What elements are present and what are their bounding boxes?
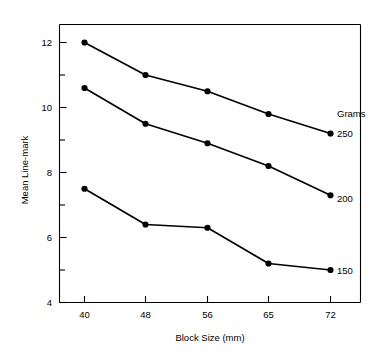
legend: Grams 250 200 150 <box>337 108 366 276</box>
data-point-200-48 <box>142 121 148 127</box>
x-tick-label-72: 72 <box>325 309 336 320</box>
series-label-150: 150 <box>337 265 353 276</box>
y-tick-label-4: 4 <box>47 297 52 308</box>
line-chart: 4 6 8 10 12 40 48 56 65 72 Block Size (m… <box>0 0 383 354</box>
y-axis-title: Mean Line-mark <box>19 135 30 204</box>
x-axis-tick-labels: 40 48 56 65 72 <box>79 309 336 320</box>
x-tick-label-48: 48 <box>140 309 151 320</box>
x-tick-label-65: 65 <box>263 309 274 320</box>
y-axis-tick-labels: 4 6 8 10 12 <box>41 37 52 308</box>
y-tick-label-10: 10 <box>41 102 52 113</box>
series-label-200: 200 <box>337 193 353 204</box>
y-tick-label-8: 8 <box>47 167 52 178</box>
x-axis-title: Block Size (mm) <box>175 332 244 343</box>
data-point-250-40 <box>81 39 87 45</box>
plot-frame <box>60 25 361 303</box>
series-label-250: 250 <box>337 128 353 139</box>
series-layer <box>81 39 333 273</box>
y-tick-label-6: 6 <box>47 232 52 243</box>
data-point-250-48 <box>142 72 148 78</box>
data-point-150-65 <box>265 260 271 266</box>
data-point-150-56 <box>204 225 210 231</box>
data-point-200-72 <box>327 192 333 198</box>
x-axis-ticks <box>85 296 331 303</box>
data-point-250-56 <box>204 88 210 94</box>
x-tick-label-40: 40 <box>79 309 90 320</box>
data-point-200-65 <box>265 163 271 169</box>
series-200 <box>81 85 333 198</box>
data-point-150-48 <box>142 221 148 227</box>
data-point-150-72 <box>327 267 333 273</box>
y-axis-ticks <box>60 43 67 303</box>
series-150 <box>81 186 333 273</box>
data-point-250-72 <box>327 130 333 136</box>
series-250 <box>81 39 333 136</box>
x-tick-label-56: 56 <box>202 309 213 320</box>
data-point-200-56 <box>204 140 210 146</box>
y-tick-label-12: 12 <box>41 37 52 48</box>
data-point-200-40 <box>81 85 87 91</box>
chart-canvas: 4 6 8 10 12 40 48 56 65 72 Block Size (m… <box>0 0 383 354</box>
data-point-150-40 <box>81 186 87 192</box>
series-line-250 <box>85 43 331 134</box>
legend-title: Grams <box>337 108 366 119</box>
data-point-250-65 <box>265 111 271 117</box>
